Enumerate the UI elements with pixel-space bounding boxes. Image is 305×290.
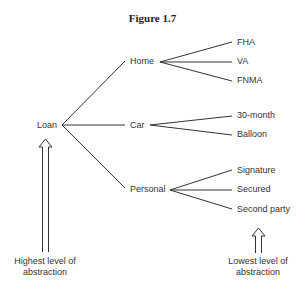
caption-line: Lowest level of	[218, 256, 298, 267]
up-arrow-icon	[252, 228, 265, 253]
node-loan: Loan	[37, 120, 57, 131]
node-car: Car	[130, 120, 145, 131]
caption-line: abstraction	[218, 267, 298, 278]
leaf-va: VA	[237, 56, 248, 67]
leaf-balloon: Balloon	[237, 129, 267, 140]
caption-line: Highest level of	[5, 256, 85, 267]
lowest-abstraction-label: Lowest level of abstraction	[218, 256, 298, 278]
leaf-30-month: 30-month	[237, 110, 275, 121]
tree-lines	[0, 0, 305, 290]
leaf-fnma: FNMA	[237, 75, 263, 86]
leaf-fha: FHA	[237, 37, 255, 48]
highest-abstraction-label: Highest level of abstraction	[5, 256, 85, 278]
node-home: Home	[130, 56, 154, 67]
up-arrow-icon	[39, 139, 52, 252]
leaf-signature: Signature	[237, 165, 276, 176]
caption-line: abstraction	[5, 267, 85, 278]
node-personal: Personal	[130, 184, 166, 195]
leaf-secured: Secured	[237, 184, 271, 195]
leaf-second-party: Second party	[237, 204, 290, 215]
